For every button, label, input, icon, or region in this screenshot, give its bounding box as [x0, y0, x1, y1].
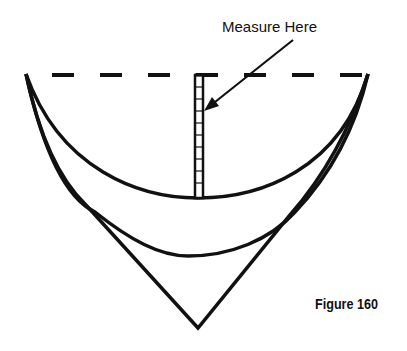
figure-caption: Figure 160	[315, 296, 378, 312]
measurement-ruler	[195, 75, 213, 198]
measure-here-label: Measure Here	[222, 18, 317, 35]
